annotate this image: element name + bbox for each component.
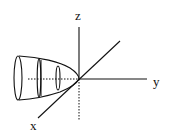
axes-diagram: z y x bbox=[0, 0, 171, 140]
paraboloid-outline bbox=[19, 56, 79, 100]
x-axis-label: x bbox=[30, 118, 37, 133]
y-axis-label: y bbox=[153, 74, 160, 89]
cross-section-ring-1 bbox=[37, 59, 41, 97]
cross-section-ring-2 bbox=[56, 66, 60, 90]
paraboloid-opening bbox=[14, 56, 22, 100]
z-axis-label: z bbox=[75, 8, 81, 23]
